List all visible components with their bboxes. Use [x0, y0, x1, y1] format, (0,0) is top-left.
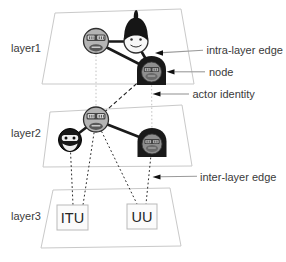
uu-box-label: UU — [132, 209, 153, 225]
node-label: node — [209, 66, 233, 78]
glasses-face-icon — [84, 107, 109, 132]
inter-layer-edge-label: inter-layer edge — [200, 171, 276, 183]
hooded-face-icon — [138, 128, 167, 157]
glasses-face-icon — [84, 29, 109, 54]
multilayer-network-figure: ITU UU intra-layer edge node actor ident… — [0, 0, 286, 262]
layer1-label: layer1 — [11, 42, 41, 54]
diagram-canvas: ITU UU intra-layer edge node actor ident… — [0, 0, 286, 262]
itu-box-label: ITU — [61, 210, 84, 226]
arrow-left-icon — [153, 91, 161, 96]
arrow-left-icon — [153, 174, 161, 179]
inter-layer-edge-leader-line — [161, 176, 198, 177]
actor-identity-label: actor identity — [193, 88, 256, 100]
layer3-label: layer3 — [11, 210, 41, 222]
intra-layer-edge-label: intra-layer edge — [207, 44, 283, 56]
layer-labels: layer1 layer2 layer3 — [11, 42, 41, 222]
hooded-face-icon — [137, 56, 166, 85]
layer2-label: layer2 — [11, 127, 41, 139]
beard-face-icon — [59, 129, 82, 152]
